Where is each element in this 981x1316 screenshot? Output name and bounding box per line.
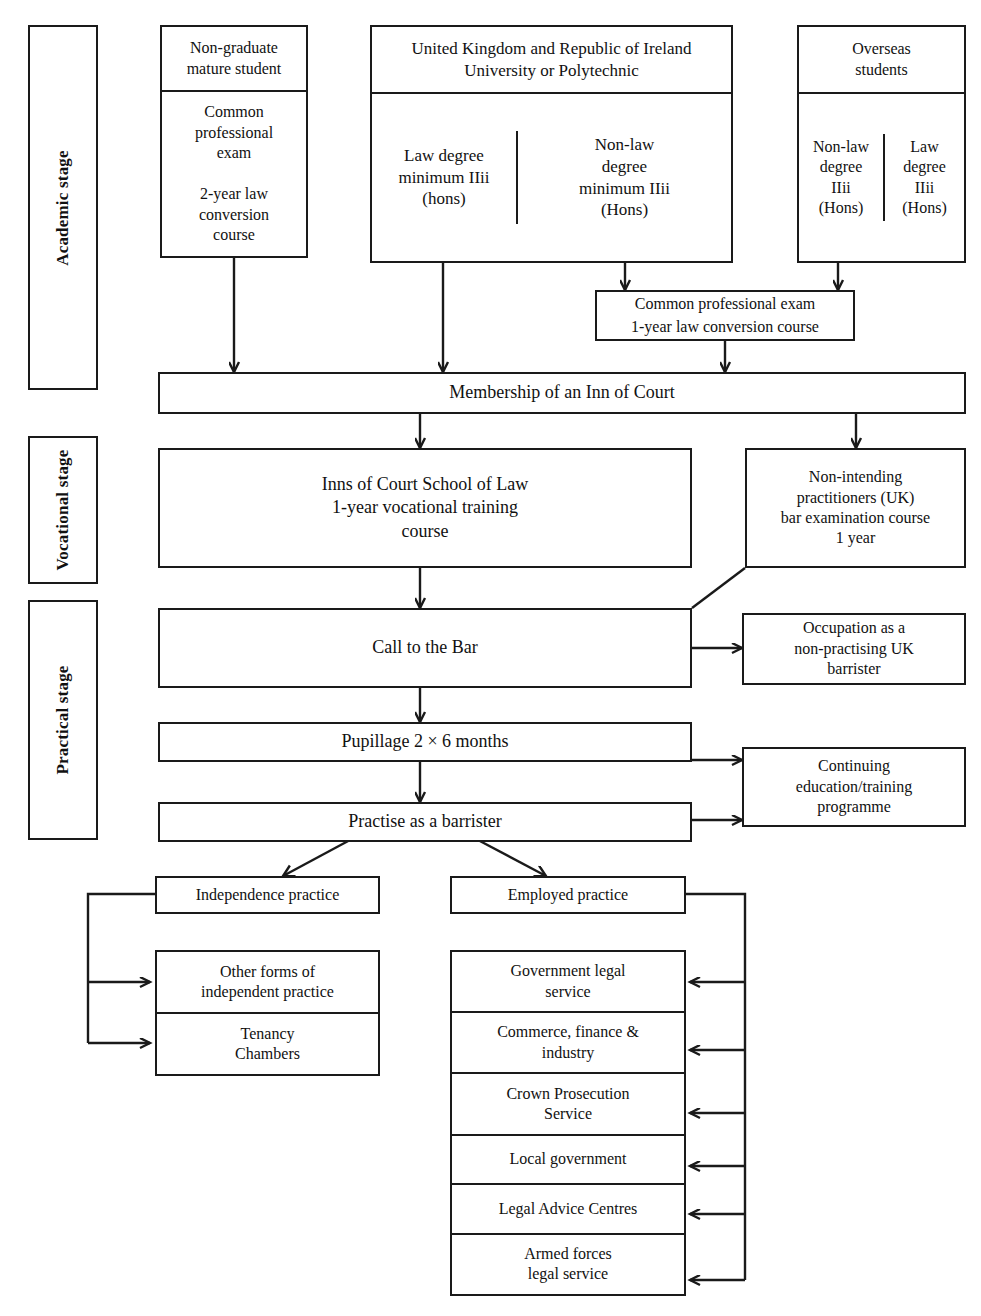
- node-independent-options[interactable]: Other forms of independent practice Tena…: [155, 950, 380, 1076]
- node-continuing-education[interactable]: Continuing education/training programme: [742, 747, 966, 827]
- tenancy-chambers-label[interactable]: Tenancy Chambers: [157, 1012, 378, 1074]
- independence-label: Independence practice: [157, 882, 378, 908]
- edge-employed-rail: [686, 894, 745, 1280]
- stage-label-practical: Practical stage: [53, 665, 73, 774]
- overseas-nonlaw-degree[interactable]: Non-law degree IIii (Hons): [799, 134, 883, 222]
- pupillage-label: Pupillage 2 × 6 months: [160, 727, 690, 756]
- employed-option-government[interactable]: Government legal service: [452, 952, 684, 1011]
- employed-option-cps[interactable]: Crown Prosecution Service: [452, 1072, 684, 1133]
- node-inn-membership[interactable]: Membership of an Inn of Court: [158, 372, 966, 414]
- node-call-to-the-bar[interactable]: Call to the Bar: [158, 608, 692, 688]
- non-graduate-body: Common professional exam 2-year law conv…: [162, 90, 306, 256]
- stage-rail-academic: Academic stage: [28, 25, 98, 390]
- continuing-label: Continuing education/training programme: [744, 753, 964, 820]
- uk-ireland-law-degree[interactable]: Law degree minimum IIii (hons): [372, 142, 516, 213]
- node-non-practising-barrister[interactable]: Occupation as a non-practising UK barris…: [742, 613, 966, 685]
- node-practise-as-barrister[interactable]: Practise as a barrister: [158, 802, 692, 842]
- non-intending-label: Non-intending practitioners (UK) bar exa…: [747, 464, 964, 552]
- node-employed-practice[interactable]: Employed practice: [450, 876, 686, 914]
- flowchart-canvas: Academic stage Vocational stage Practica…: [0, 0, 981, 1316]
- edge-independence-rail: [88, 894, 155, 982]
- uk-ireland-header: United Kingdom and Republic of Ireland U…: [372, 27, 731, 92]
- employed-option-local-government[interactable]: Local government: [452, 1134, 684, 1184]
- inn-membership-label: Membership of an Inn of Court: [160, 378, 964, 407]
- uk-ireland-nonlaw-degree[interactable]: Non-law degree minimum IIii (Hons): [516, 131, 731, 224]
- node-pupillage[interactable]: Pupillage 2 × 6 months: [158, 722, 692, 762]
- other-forms-label[interactable]: Other forms of independent practice: [157, 952, 378, 1012]
- stage-rail-practical: Practical stage: [28, 600, 98, 840]
- employed-label: Employed practice: [452, 882, 684, 908]
- node-overseas[interactable]: Overseas students Non-law degree IIii (H…: [797, 25, 966, 263]
- icsl-label: Inns of Court School of Law 1-year vocat…: [160, 470, 690, 545]
- edge-nonintending-to-call: [692, 568, 745, 608]
- overseas-law-degree[interactable]: Law degree IIii (Hons): [883, 134, 964, 222]
- edge-practise-to-employed: [478, 840, 546, 876]
- node-icsl[interactable]: Inns of Court School of Law 1-year vocat…: [158, 448, 692, 568]
- non-graduate-header: Non-graduate mature student: [162, 27, 306, 90]
- edge-practise-to-independence: [283, 840, 350, 876]
- node-common-professional-exam[interactable]: Common professional exam 1-year law conv…: [595, 290, 855, 341]
- cpe-line-1: Common professional exam: [597, 293, 853, 316]
- node-non-graduate[interactable]: Non-graduate mature student Common profe…: [160, 25, 308, 258]
- node-non-intending-practitioners[interactable]: Non-intending practitioners (UK) bar exa…: [745, 448, 966, 568]
- employed-option-commerce[interactable]: Commerce, finance & industry: [452, 1011, 684, 1072]
- call-to-bar-label: Call to the Bar: [160, 633, 690, 662]
- stage-label-vocational: Vocational stage: [53, 449, 73, 570]
- employed-option-legal-advice[interactable]: Legal Advice Centres: [452, 1183, 684, 1233]
- node-uk-ireland[interactable]: United Kingdom and Republic of Ireland U…: [370, 25, 733, 263]
- overseas-header: Overseas students: [799, 27, 964, 92]
- node-independence-practice[interactable]: Independence practice: [155, 876, 380, 914]
- overseas-degrees: Non-law degree IIii (Hons) Law degree II…: [799, 92, 964, 261]
- employed-option-armed-forces[interactable]: Armed forces legal service: [452, 1233, 684, 1294]
- cpe-line-2: 1-year law conversion course: [597, 316, 853, 339]
- node-employed-options[interactable]: Government legal service Commerce, finan…: [450, 950, 686, 1296]
- stage-label-academic: Academic stage: [53, 150, 73, 266]
- non-practising-label: Occupation as a non-practising UK barris…: [744, 615, 964, 682]
- practise-label: Practise as a barrister: [160, 807, 690, 836]
- uk-ireland-degrees: Law degree minimum IIii (hons) Non-law d…: [372, 92, 731, 261]
- stage-rail-vocational: Vocational stage: [28, 436, 98, 584]
